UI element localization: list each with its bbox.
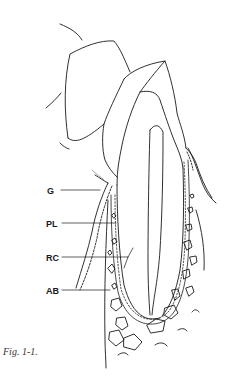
label-root-cementum: RC xyxy=(46,253,59,263)
label-alveolar-bone: AB xyxy=(46,286,59,296)
label-periodontal-ligament: PL xyxy=(46,219,58,229)
periodontal-ligament xyxy=(111,160,189,324)
tooth-diagram xyxy=(0,0,232,383)
label-gingiva: G xyxy=(47,186,54,196)
adjacent-tooth xyxy=(46,24,130,149)
figure-caption: Fig. 1-1. xyxy=(3,346,38,357)
tooth-crown xyxy=(103,61,186,185)
